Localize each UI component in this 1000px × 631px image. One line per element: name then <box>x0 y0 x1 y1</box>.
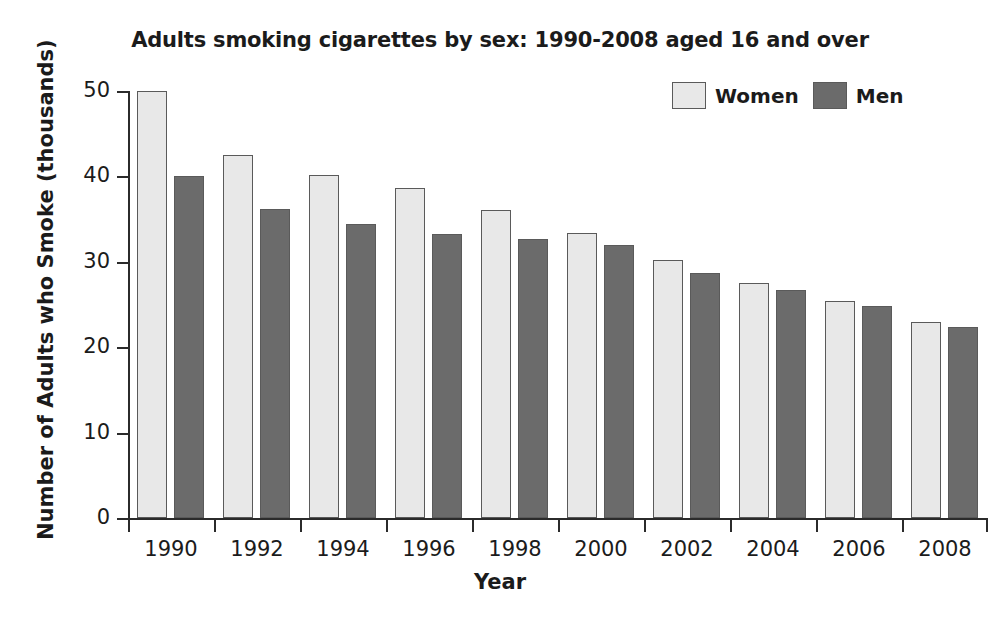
x-tick-2006 <box>816 520 818 532</box>
chart-page: Adults smoking cigarettes by sex: 1990-2… <box>0 0 1000 631</box>
x-tick-1996 <box>386 520 388 532</box>
x-tick-label-1994: 1994 <box>316 537 369 561</box>
bar-women-2000 <box>567 233 598 518</box>
bar-men-1992 <box>260 209 291 518</box>
bar-women-2006 <box>825 301 856 518</box>
bar-women-2004 <box>739 283 770 518</box>
x-tick-1990 <box>128 520 130 532</box>
x-tick-label-2004: 2004 <box>746 537 799 561</box>
bar-men-1990 <box>174 176 205 518</box>
y-tick-label-10: 10 <box>83 420 110 444</box>
chart-title: Adults smoking cigarettes by sex: 1990-2… <box>0 28 1000 52</box>
x-tick-label-2008: 2008 <box>918 537 971 561</box>
bar-men-2006 <box>862 306 893 518</box>
bar-men-1994 <box>346 224 377 518</box>
x-tick-label-1990: 1990 <box>144 537 197 561</box>
bar-men-1998 <box>518 239 549 518</box>
x-tick-label-2000: 2000 <box>574 537 627 561</box>
y-tick-0: 0 <box>117 518 128 520</box>
bar-women-1994 <box>309 175 340 518</box>
x-tick-label-2002: 2002 <box>660 537 713 561</box>
x-tick-1998 <box>472 520 474 532</box>
x-tick-2000 <box>558 520 560 532</box>
x-tick-label-1992: 1992 <box>230 537 283 561</box>
x-axis-title: Year <box>0 570 1000 594</box>
bar-women-2002 <box>653 260 684 518</box>
x-tick-end <box>986 520 988 532</box>
bar-men-2008 <box>948 327 979 518</box>
y-tick-label-30: 30 <box>83 249 110 273</box>
y-tick-10: 10 <box>117 433 128 435</box>
x-tick-label-1998: 1998 <box>488 537 541 561</box>
y-tick-label-40: 40 <box>83 163 110 187</box>
bar-women-1996 <box>395 188 426 518</box>
bar-women-2008 <box>911 322 942 518</box>
x-tick-2004 <box>730 520 732 532</box>
y-tick-30: 30 <box>117 262 128 264</box>
bar-women-1998 <box>481 210 512 518</box>
x-tick-2008 <box>902 520 904 532</box>
bar-men-2004 <box>776 290 807 518</box>
y-tick-label-50: 50 <box>83 78 110 102</box>
bar-men-1996 <box>432 234 463 518</box>
y-tick-20: 20 <box>117 347 128 349</box>
x-tick-1992 <box>214 520 216 532</box>
y-tick-40: 40 <box>117 176 128 178</box>
bar-women-1990 <box>137 91 168 518</box>
y-tick-50: 50 <box>117 91 128 93</box>
y-axis-title: Number of Adults who Smoke (thousands) <box>34 80 58 540</box>
y-tick-label-20: 20 <box>83 334 110 358</box>
plot-area: 01020304050 1990199219941996199820002002… <box>128 85 988 522</box>
bar-men-2000 <box>604 245 635 518</box>
x-tick-label-2006: 2006 <box>832 537 885 561</box>
bars <box>128 91 988 518</box>
y-tick-label-0: 0 <box>97 505 110 529</box>
x-tick-2002 <box>644 520 646 532</box>
x-tick-1994 <box>300 520 302 532</box>
bar-women-1992 <box>223 155 254 518</box>
bar-men-2002 <box>690 273 721 518</box>
x-tick-label-1996: 1996 <box>402 537 455 561</box>
